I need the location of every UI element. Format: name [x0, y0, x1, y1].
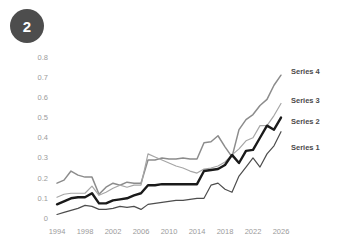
x-tick-label: 2018 [210, 227, 240, 236]
x-tick-label: 2010 [154, 227, 184, 236]
y-tick-label: 0.6 [24, 93, 48, 102]
x-tick-label: 2022 [238, 227, 268, 236]
x-tick-label: 2006 [126, 227, 156, 236]
legend-label-series-4: Series 4 [291, 67, 320, 76]
legend-label-series-1: Series 1 [291, 143, 320, 152]
series-line-series-2 [57, 118, 281, 205]
x-tick-label: 2014 [182, 227, 212, 236]
series-line-series-1 [57, 132, 281, 215]
series-line-series-4 [57, 75, 281, 194]
y-tick-label: 0 [24, 214, 48, 223]
y-tick-label: 0.3 [24, 153, 48, 162]
legend-label-series-2: Series 2 [291, 117, 320, 126]
y-tick-label: 0.7 [24, 73, 48, 82]
chart-figure: 2 0.80.70.60.50.40.30.20.10 199419982002… [0, 0, 344, 250]
x-tick-label: 2026 [266, 227, 296, 236]
y-tick-label: 0.1 [24, 194, 48, 203]
x-tick-label: 1998 [70, 227, 100, 236]
x-tick-label: 2002 [98, 227, 128, 236]
y-tick-label: 0.5 [24, 113, 48, 122]
series-lines-group [57, 75, 281, 214]
y-tick-label: 0.8 [24, 53, 48, 62]
legend-label-series-3: Series 3 [291, 96, 320, 105]
y-tick-label: 0.2 [24, 174, 48, 183]
y-tick-label: 0.4 [24, 133, 48, 142]
x-tick-label: 1994 [42, 227, 72, 236]
